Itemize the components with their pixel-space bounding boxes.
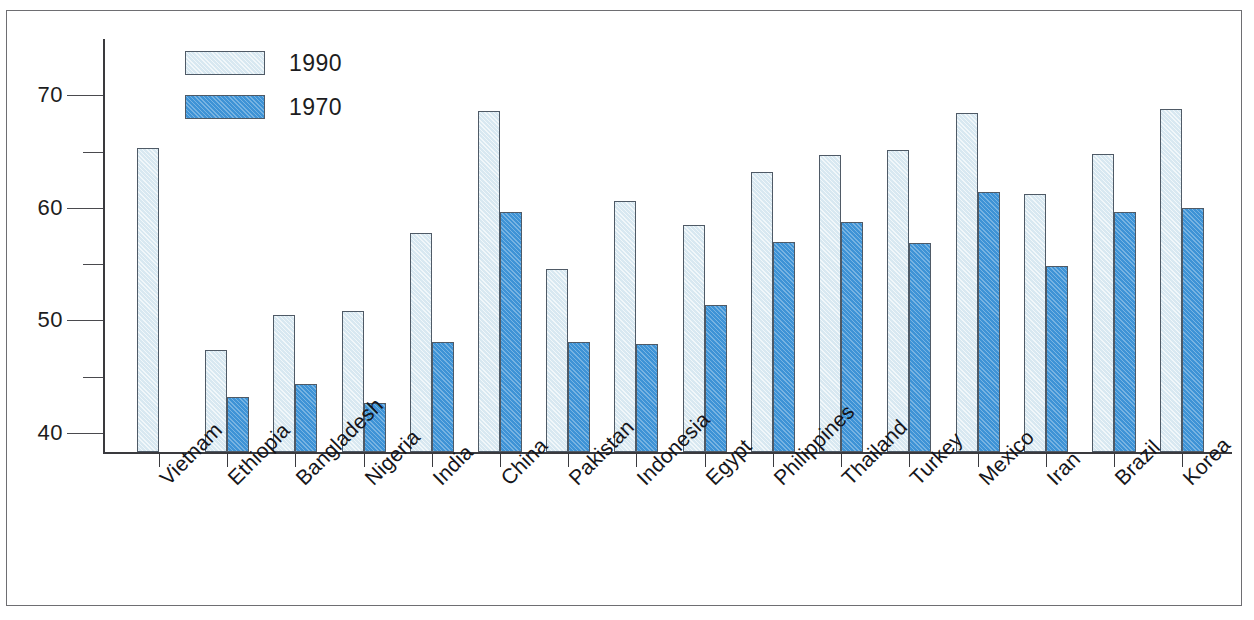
y-tick-major [67,95,103,96]
chart-figure: 40506070 VietnamEthiopiaBangladeshNigeri… [0,0,1254,620]
x-tick [1114,454,1115,467]
x-tick [978,454,979,467]
bar-group [342,39,386,452]
bar-1990 [1092,154,1114,452]
y-tick-minor [83,264,103,265]
y-tick-label: 50 [38,307,63,333]
bar-1970 [295,384,317,452]
y-tick-major [67,208,103,209]
y-tick-minor [83,377,103,378]
plot-area: 40506070 VietnamEthiopiaBangladeshNigeri… [103,39,1232,454]
bar-1990 [546,269,568,452]
x-tick [1182,454,1183,467]
bar-1990 [410,233,432,452]
legend-swatch-1990-icon [185,51,265,75]
bar-1970 [568,342,590,452]
bar-group [1024,39,1068,452]
y-tick-major [67,433,103,434]
bar-1970 [227,397,249,452]
x-tick [568,454,569,467]
bar-1990 [751,172,773,452]
bar-group [1092,39,1136,452]
x-tick [841,454,842,467]
y-tick-minor [83,152,103,153]
bar-group [614,39,658,452]
bar-1970 [909,243,931,452]
x-tick [295,454,296,467]
bar-group [956,39,1000,452]
x-tick [705,454,706,467]
legend-label-1970: 1970 [289,91,342,123]
bar-1990 [614,201,636,452]
bar-group [887,39,931,452]
y-axis-line [103,39,105,454]
x-tick [636,454,637,467]
y-tick-label: 70 [38,82,63,108]
bar-group [819,39,863,452]
bar-1990 [1024,194,1046,452]
bar-1970 [1182,208,1204,452]
bar-1970 [636,344,658,452]
bar-1970 [432,342,454,452]
x-tick [773,454,774,467]
bar-1990 [137,148,159,452]
legend-swatch-1970-icon [185,95,265,119]
x-tick [432,454,433,467]
bar-1970 [978,192,1000,452]
x-tick [1046,454,1047,467]
bar-1970 [1046,266,1068,452]
bar-group [137,39,181,452]
y-tick-major [67,320,103,321]
figure-frame: 40506070 VietnamEthiopiaBangladeshNigeri… [6,10,1242,606]
bar-1970 [500,212,522,452]
x-tick [159,454,160,467]
bar-1970 [1114,212,1136,452]
bar-group [546,39,590,452]
bar-group [751,39,795,452]
bar-group [1160,39,1204,452]
bar-group [410,39,454,452]
x-tick [364,454,365,467]
bar-group [478,39,522,452]
x-tick [909,454,910,467]
x-tick [227,454,228,467]
bar-1990 [956,113,978,452]
bar-1990 [887,150,909,452]
bar-1970 [773,242,795,452]
x-tick [500,454,501,467]
y-tick-label: 40 [38,420,63,446]
legend-label-1990: 1990 [289,47,342,79]
bar-1990 [478,111,500,452]
bar-group [683,39,727,452]
y-tick-label: 60 [38,195,63,221]
bar-1990 [1160,109,1182,452]
